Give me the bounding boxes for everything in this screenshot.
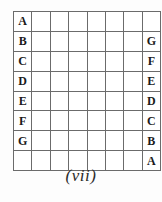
grid-cell-r2c2 — [32, 31, 50, 51]
figure-container: A B G — [0, 0, 162, 202]
grid-cell-r7c5 — [87, 131, 105, 151]
grid-cell-r6c7 — [124, 111, 142, 131]
grid-cell-r3c7 — [124, 51, 142, 71]
grid-cell-r3c5 — [87, 51, 105, 71]
grid-cell-r3c1: C — [14, 51, 32, 71]
grid-cell-r4c1: D — [14, 71, 32, 91]
table-row: D E — [14, 71, 161, 91]
table-row: B G — [14, 31, 161, 51]
grid-cell-r4c4 — [69, 71, 87, 91]
grid-cell-r7c7 — [124, 131, 142, 151]
grid-cell-r1c7 — [124, 12, 142, 32]
table-row: F C — [14, 111, 161, 131]
grid-cell-r6c2 — [32, 111, 50, 131]
grid-cell-r2c6 — [105, 31, 123, 51]
grid-cell-r6c4 — [69, 111, 87, 131]
grid-cell-r5c7 — [124, 91, 142, 111]
table-row: G B — [14, 131, 161, 151]
grid-cell-r4c2 — [32, 71, 50, 91]
grid-cell-r1c4 — [69, 12, 87, 32]
grid-cell-r4c6 — [105, 71, 123, 91]
grid-cell-r1c3 — [50, 12, 68, 32]
grid-cell-r1c8 — [142, 12, 160, 32]
grid-cell-r1c6 — [105, 12, 123, 32]
grid-cell-r6c5 — [87, 111, 105, 131]
grid-cell-r6c1: F — [14, 111, 32, 131]
grid-cell-r3c4 — [69, 51, 87, 71]
grid-cell-r5c4 — [69, 91, 87, 111]
grid-cell-r6c8: C — [142, 111, 160, 131]
grid-cell-r6c6 — [105, 111, 123, 131]
grid-cell-r5c1: E — [14, 91, 32, 111]
grid-cell-r3c6 — [105, 51, 123, 71]
grid-cell-r3c3 — [50, 51, 68, 71]
grid-container: A B G — [13, 11, 152, 162]
grid-cell-r7c2 — [32, 131, 50, 151]
grid-cell-r1c2 — [32, 12, 50, 32]
grid-cell-r5c8: D — [142, 91, 160, 111]
grid-cell-r2c1: B — [14, 31, 32, 51]
grid-cell-r2c8: G — [142, 31, 160, 51]
figure-caption: (vii) — [0, 166, 162, 186]
grid-cell-r7c4 — [69, 131, 87, 151]
grid-cell-r4c5 — [87, 71, 105, 91]
letter-grid: A B G — [13, 11, 161, 171]
grid-cell-r7c6 — [105, 131, 123, 151]
grid-cell-r6c3 — [50, 111, 68, 131]
grid-cell-r4c8: E — [142, 71, 160, 91]
grid-cell-r2c7 — [124, 31, 142, 51]
grid-cell-r2c5 — [87, 31, 105, 51]
table-row: C F — [14, 51, 161, 71]
grid-cell-r5c2 — [32, 91, 50, 111]
grid-cell-r4c3 — [50, 71, 68, 91]
grid-body: A B G — [14, 12, 161, 171]
table-row: A — [14, 12, 161, 32]
grid-cell-r3c2 — [32, 51, 50, 71]
table-row: E D — [14, 91, 161, 111]
grid-cell-r2c3 — [50, 31, 68, 51]
grid-cell-r1c1: A — [14, 12, 32, 32]
grid-cell-r5c6 — [105, 91, 123, 111]
grid-cell-r7c1: G — [14, 131, 32, 151]
grid-cell-r2c4 — [69, 31, 87, 51]
grid-cell-r3c8: F — [142, 51, 160, 71]
grid-cell-r4c7 — [124, 71, 142, 91]
grid-cell-r7c3 — [50, 131, 68, 151]
grid-cell-r5c5 — [87, 91, 105, 111]
grid-cell-r1c5 — [87, 12, 105, 32]
grid-cell-r5c3 — [50, 91, 68, 111]
grid-cell-r7c8: B — [142, 131, 160, 151]
